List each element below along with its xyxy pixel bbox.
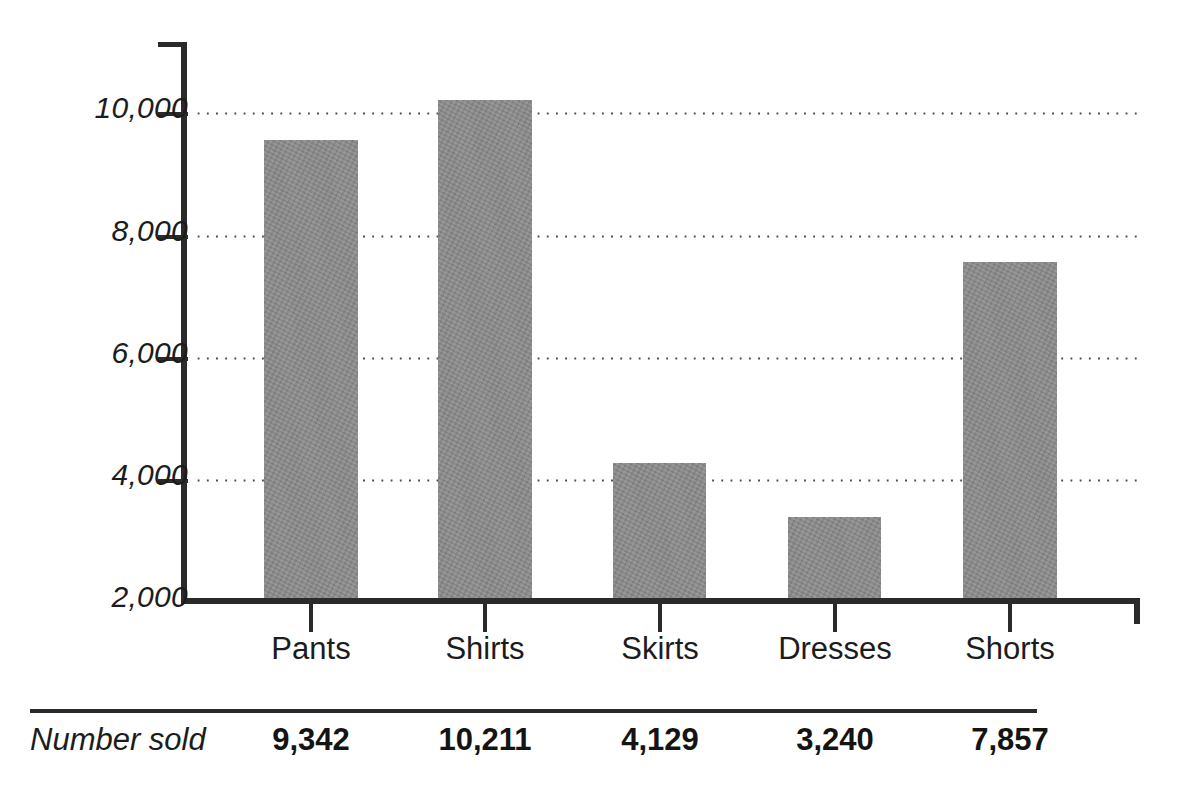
x-tick-shirts — [483, 604, 487, 632]
y-tick-label: 2,000 — [48, 580, 188, 614]
y-tick-label: 4,000 — [48, 458, 188, 492]
bar-chart-figure: 10,000 8,000 6,000 4,000 2,000 Pants Shi… — [0, 0, 1179, 799]
x-axis-end-cap — [1134, 598, 1140, 624]
x-tick-shorts — [1008, 604, 1012, 632]
bar-skirts — [613, 463, 706, 602]
y-tick-label: 8,000 — [48, 214, 188, 248]
bar-shorts — [963, 262, 1057, 602]
bar-pants — [264, 140, 358, 602]
bar-shirts — [438, 100, 532, 602]
x-tick-pants — [309, 604, 313, 632]
table-row-label: Number sold — [30, 722, 206, 758]
gridline-10000 — [194, 112, 1140, 115]
table-cell-shorts: 7,857 — [900, 722, 1120, 758]
y-axis-top-cap — [158, 42, 187, 47]
y-tick-label: 6,000 — [48, 336, 188, 370]
bar-dresses — [788, 517, 881, 602]
y-tick-label: 10,000 — [48, 91, 188, 125]
x-tick-dresses — [833, 604, 837, 632]
table-separator-rule — [30, 709, 1037, 713]
category-label-shorts: Shorts — [900, 631, 1120, 667]
y-axis-line — [181, 42, 187, 604]
x-tick-skirts — [658, 604, 662, 632]
